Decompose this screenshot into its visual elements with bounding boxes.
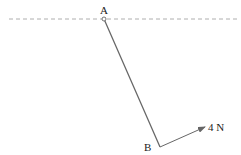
rod-ab [104,19,160,147]
label-b: B [144,141,151,153]
force-label: 4 N [208,121,224,133]
rod-force-diagram: A B 4 N [0,0,241,155]
pivot-a-icon [102,17,106,21]
force-arrow [160,127,205,147]
label-a: A [100,4,108,16]
